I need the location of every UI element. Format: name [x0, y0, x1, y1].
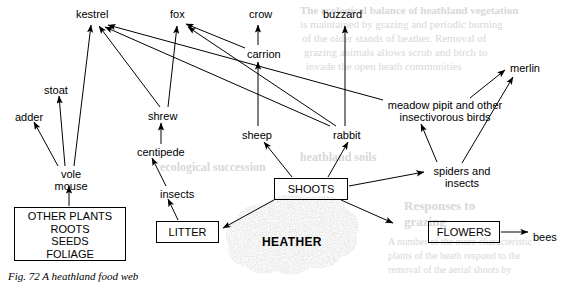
arrow-shoots-to-sheep: [264, 142, 292, 177]
arrow-volemouse-to-stoat: [59, 96, 65, 166]
arrow-spidersinsects-to-meadowpipit: [421, 124, 437, 162]
node-insects: insects: [160, 188, 194, 200]
node-crow: crow: [249, 8, 272, 20]
node-kestrel: kestrel: [76, 8, 108, 20]
node-adder: adder: [15, 111, 43, 123]
arrow-volemouse-to-adder: [34, 122, 58, 166]
arrow-carrion-to-fox: [186, 24, 245, 48]
node-meadow-pipit-line2: insectivorous birds: [385, 111, 505, 123]
node-spiders-insects-line1: spiders and: [430, 165, 494, 177]
node-shrew: shrew: [148, 110, 177, 122]
arrow-litter-to-insects: [168, 199, 178, 220]
node-vole-mouse-line2: mouse: [48, 180, 94, 192]
node-vole-mouse-line1: vole: [48, 168, 94, 180]
arrow-shoots-to-rabbit: [328, 142, 348, 177]
node-meadow-pipit: meadow pipit and other insectivorous bir…: [385, 99, 505, 123]
arrow-meadowpipit-to-merlin: [470, 70, 505, 98]
node-rabbit: rabbit: [333, 129, 361, 141]
arrow-volemouse-to-kestrel: [74, 25, 91, 166]
figure-container: The ecological balance of heathland vege…: [0, 0, 566, 291]
node-merlin: merlin: [510, 62, 540, 74]
node-fox: fox: [170, 8, 185, 20]
figure-caption: Fig. 72 A heathland food web: [8, 270, 138, 282]
node-litter-box: LITTER: [156, 221, 219, 243]
arrow-shoots-to-spidersinsects: [349, 172, 424, 186]
node-heather-label: HEATHER: [262, 235, 322, 249]
node-bees: bees: [533, 231, 557, 243]
node-buzzard: buzzard: [323, 8, 362, 20]
arrow-shrew-to-fox: [168, 26, 177, 107]
arrow-insects-to-centipede: [152, 158, 166, 186]
node-centipede: centipede: [137, 146, 185, 158]
node-shoots-box: SHOOTS: [274, 178, 348, 200]
node-other-plants-box: OTHER PLANTS ROOTS SEEDS FOLIAGE: [14, 207, 126, 261]
node-spiders-insects-line2: insects: [430, 177, 494, 189]
node-sheep: sheep: [242, 129, 272, 141]
node-vole-mouse: vole mouse: [48, 168, 94, 192]
node-spiders-insects: spiders and insects: [430, 165, 494, 189]
node-carrion: carrion: [247, 48, 281, 60]
arrow-rabbit-to-fox: [188, 27, 336, 126]
node-meadow-pipit-line1: meadow pipit and other: [385, 99, 505, 111]
node-stoat: stoat: [44, 84, 68, 96]
node-flowers-box: FLOWERS: [428, 221, 500, 243]
